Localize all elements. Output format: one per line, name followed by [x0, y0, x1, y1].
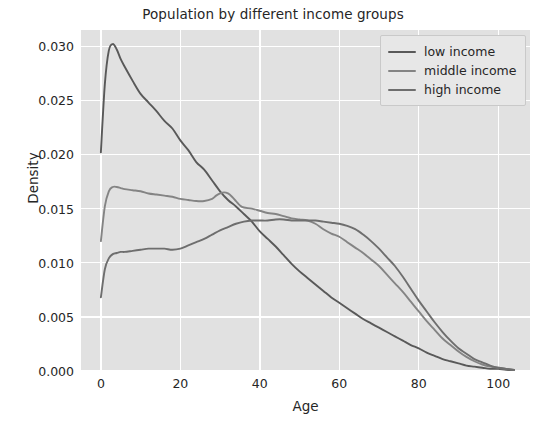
- legend-label-low-income: low income: [424, 44, 495, 59]
- y-tick-label: 0.030: [4, 39, 74, 54]
- y-tick-label: 0.010: [4, 255, 74, 270]
- y-tick-label: 0.015: [4, 201, 74, 216]
- chart-title: Population by different income groups: [0, 6, 546, 22]
- legend-label-high-income: high income: [424, 82, 501, 97]
- y-tick-label: 0.025: [4, 93, 74, 108]
- legend-item-high-income: high income: [388, 80, 517, 99]
- x-tick-label: 0: [71, 376, 131, 391]
- y-tick-label: 0.020: [4, 147, 74, 162]
- x-tick-label: 100: [468, 376, 528, 391]
- legend-item-low-income: low income: [388, 42, 517, 61]
- x-axis-label: Age: [81, 398, 530, 414]
- y-tick-label: 0.005: [4, 309, 74, 324]
- x-tick-label: 40: [230, 376, 290, 391]
- legend-label-middle-income: middle income: [424, 63, 516, 78]
- x-tick-label: 80: [389, 376, 449, 391]
- legend-line-swatch-middle-income: [388, 65, 416, 76]
- chart-figure: Population by different income groups De…: [0, 0, 546, 440]
- legend-line-swatch-high-income: [388, 84, 416, 95]
- y-tick-label: 0.000: [4, 364, 74, 379]
- legend-line-swatch-low-income: [388, 46, 416, 57]
- x-axis-ticks: 020406080100: [81, 376, 530, 396]
- x-tick-label: 20: [150, 376, 210, 391]
- chart-legend: low income middle income high income: [380, 35, 526, 106]
- y-axis-ticks: 0.0000.0050.0100.0150.0200.0250.030: [0, 30, 74, 371]
- x-tick-label: 60: [309, 376, 369, 391]
- legend-item-middle-income: middle income: [388, 61, 517, 80]
